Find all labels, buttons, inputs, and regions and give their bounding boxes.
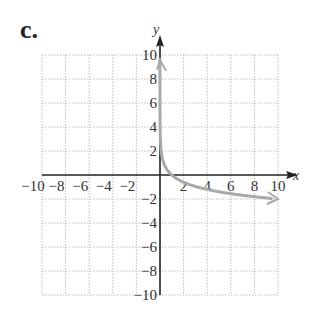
y-tick-label: 8 [150,71,158,87]
x-tick-label: −6 [72,178,88,194]
x-axis-label: x [292,168,300,183]
x-tick-label: −10 [21,178,44,194]
y-tick-label: 4 [150,119,158,135]
x-tick-label: −4 [96,178,112,194]
x-tick-label: −8 [49,178,65,194]
y-tick-label: −4 [141,215,157,231]
data-curve [157,60,278,204]
part-label: c. [20,15,38,44]
x-tick-label: 8 [251,178,259,194]
y-tick-label: 2 [150,143,158,159]
curve-arrow-top-icon [157,60,166,71]
graph-figure: c. −10−8−6−4−2246810−10−8−6−4−2246810 x … [0,0,324,316]
y-tick-label: 10 [142,47,157,63]
y-tick-label: −8 [141,263,157,279]
axes [42,35,298,295]
y-tick-label: −10 [134,287,157,303]
y-tick-label: 6 [150,95,158,111]
x-tick-label: 6 [227,178,235,194]
y-tick-label: −2 [141,191,157,207]
y-tick-label: −6 [141,239,157,255]
y-axis-label: y [151,22,160,37]
x-tick-label: −2 [119,178,135,194]
x-tick-label: 10 [271,178,286,194]
